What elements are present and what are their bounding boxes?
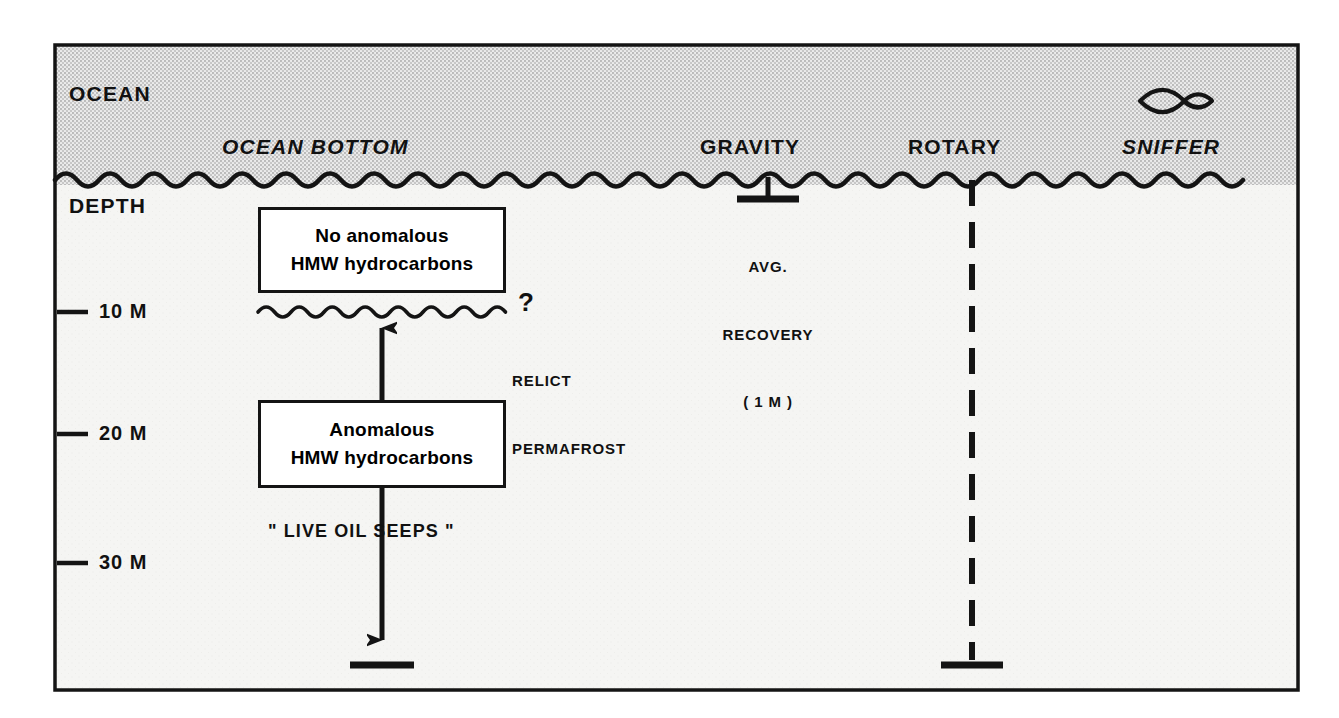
sediment-layer [55,178,1298,690]
diagram-graphics [0,0,1339,718]
ocean-bottom-label: OCEAN BOTTOM [222,135,409,159]
gravity-recovery-note: AVG. RECOVERY ( 1 M ) [698,211,838,459]
ocean-layer [55,45,1298,185]
no-anomalous-box: No anomalous HMW hydrocarbons [258,207,506,293]
gravity-note-line-3: ( 1 M ) [698,391,838,414]
depth-axis-label: DEPTH [69,194,146,218]
relict-permafrost-label: RELICT PERMAFROST [512,325,626,505]
anomalous-box: Anomalous HMW hydrocarbons [258,400,506,488]
relict-permafrost-line-1: RELICT [512,370,626,393]
gravity-label: GRAVITY [700,135,800,159]
no-anomalous-line-1: No anomalous [291,222,474,250]
rotary-label: ROTARY [908,135,1002,159]
depth-tick-label-30: 30 M [99,551,147,573]
diagram-canvas: OCEAN OCEAN BOTTOM GRAVITY ROTARY SNIFFE… [0,0,1339,718]
relict-permafrost-line-2: PERMAFROST [512,438,626,461]
sniffer-label: SNIFFER [1122,135,1220,159]
gravity-note-line-1: AVG. [698,256,838,279]
permafrost-question-mark: ? [518,288,534,317]
depth-tick-label-20: 20 M [99,422,147,444]
live-oil-seeps-label: " LIVE OIL SEEPS " [268,521,455,541]
gravity-note-line-2: RECOVERY [698,324,838,347]
no-anomalous-box-text: No anomalous HMW hydrocarbons [291,222,474,277]
ocean-label: OCEAN [69,82,151,106]
no-anomalous-line-2: HMW hydrocarbons [291,250,474,278]
depth-tick-label-10: 10 M [99,300,147,322]
anomalous-box-text: Anomalous HMW hydrocarbons [291,416,474,471]
anomalous-line-2: HMW hydrocarbons [291,444,474,472]
anomalous-line-1: Anomalous [291,416,474,444]
